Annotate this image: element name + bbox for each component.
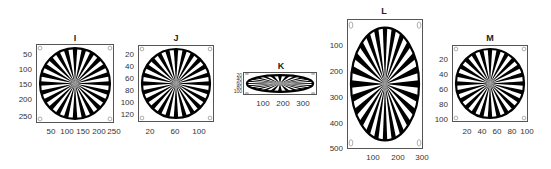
siemens-star-image xyxy=(244,73,316,94)
x-tick: 300 xyxy=(291,99,315,108)
siemens-star-image xyxy=(453,46,527,121)
y-tick: 250 xyxy=(8,112,32,121)
siemens-star-image xyxy=(139,46,213,121)
y-tick: 100 xyxy=(8,65,32,74)
y-tick: 40 xyxy=(110,62,134,71)
y-tick: 400 xyxy=(319,119,343,128)
y-tick: 100 xyxy=(424,115,448,124)
siemens-star-image xyxy=(37,45,113,122)
y-tick: 500 xyxy=(319,144,343,153)
plot-title: J xyxy=(166,33,186,43)
x-tick: 100 xyxy=(187,127,211,136)
y-tick: 100 xyxy=(110,98,134,107)
plot-title: L xyxy=(374,6,394,16)
x-tick: 200 xyxy=(386,153,410,162)
plot-area-j xyxy=(138,45,214,122)
plot-area-i xyxy=(36,44,114,123)
x-tick: 20 xyxy=(138,127,162,136)
plot-title: I xyxy=(65,33,85,43)
y-tick: 80 xyxy=(110,86,134,95)
x-tick: 250 xyxy=(102,127,126,136)
y-tick: 20 xyxy=(424,55,448,64)
y-tick: 150 xyxy=(8,80,32,89)
y-tick: 40 xyxy=(424,70,448,79)
y-tick: 60 xyxy=(424,85,448,94)
plot-area-l xyxy=(347,19,423,149)
plot-title: K xyxy=(271,61,291,71)
y-tick: 120 xyxy=(110,110,134,119)
x-tick: 100 xyxy=(361,153,385,162)
x-tick: 300 xyxy=(410,153,434,162)
y-tick: 200 xyxy=(8,95,32,104)
x-tick: 60 xyxy=(163,127,187,136)
y-tick: 80 xyxy=(424,100,448,109)
y-tick: 200 xyxy=(319,67,343,76)
y-tick: 50 xyxy=(8,50,32,59)
plot-title: M xyxy=(480,33,500,43)
plot-area-k xyxy=(243,72,317,95)
y-tick: 20 xyxy=(110,50,134,59)
siemens-star-image xyxy=(348,20,422,148)
plot-area-m xyxy=(452,45,528,122)
x-tick: 100 xyxy=(515,127,539,136)
y-tick: 100 xyxy=(230,88,242,94)
y-tick: 60 xyxy=(110,74,134,83)
y-tick: 300 xyxy=(319,93,343,102)
y-tick: 100 xyxy=(319,41,343,50)
